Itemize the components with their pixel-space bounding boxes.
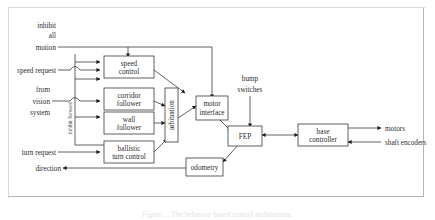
label-direction: direction (35, 165, 61, 173)
block-diagram-canvas: speed control corridor follower wall fol… (0, 0, 435, 220)
node-odometry-label: odometry (191, 164, 219, 172)
node-base-controller-label-1: base (317, 128, 330, 136)
label-turn-request: turn request (22, 149, 56, 157)
figure-caption: Figure ... The behavior-based control ar… (0, 210, 435, 220)
label-shaft-encoders: shaft encoders (385, 139, 427, 147)
wire-corridor-to-arbitration (154, 101, 165, 106)
label-inhibit-all-motion-line3: motion (36, 44, 57, 52)
node-base-controller-label-2: controller (309, 136, 338, 144)
label-speed-request: speed request (17, 67, 56, 75)
wire-fep-to-odometry (223, 145, 238, 162)
label-inhibit-forward: inhibit forward (67, 101, 73, 134)
label-motors: motors (385, 125, 405, 133)
label-inhibit-all-motion-line1: inhibit (37, 22, 56, 30)
node-speed-control-label-2: control (119, 68, 139, 76)
label-from-vision-line1: from (36, 86, 50, 94)
figure-page: speed control corridor follower wall fol… (0, 0, 435, 220)
node-corridor-follower-label-2: follower (117, 100, 142, 108)
node-ballistic-turn-control-label-2: turn control (112, 153, 146, 161)
label-from-vision-line2: vision (32, 98, 50, 106)
label-bump-switches-line1: bump (242, 75, 259, 83)
node-arbitration-label: arbitration (168, 100, 176, 130)
node-ballistic-turn-control-label-1: ballistic (118, 145, 141, 153)
label-inhibit-all-motion-line2: all (49, 32, 56, 40)
label-bump-switches-line2: switches (238, 86, 263, 94)
node-wall-follower-label-1: wall (123, 116, 135, 124)
label-from-vision-line3: system (30, 109, 50, 117)
wire-arbitration-to-motor-interface (178, 106, 196, 118)
node-fep-label: FEP (239, 133, 251, 141)
node-corridor-follower-label-1: corridor (117, 92, 141, 100)
node-wall-follower-label-2: follower (117, 124, 142, 132)
node-motor-interface-label-1: motor (203, 100, 221, 108)
node-speed-control-label-1: speed (121, 60, 138, 68)
node-motor-interface-label-2: interface (199, 109, 224, 117)
